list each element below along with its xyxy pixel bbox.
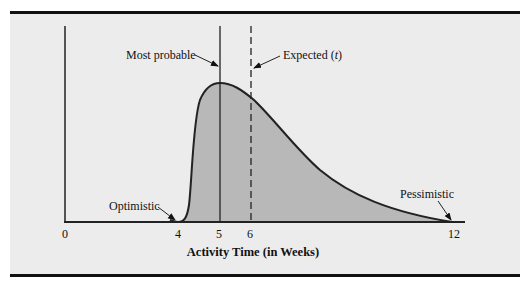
distribution-area (178, 83, 452, 222)
pessimistic-arrow (438, 201, 451, 220)
expected-label: Expected (t) (283, 48, 342, 62)
tick-0: 0 (62, 227, 68, 241)
x-axis-label: Activity Time (in Weeks) (187, 245, 319, 259)
pessimistic-label: Pessimistic (400, 187, 454, 201)
most-probable-label: Most probable (126, 48, 196, 62)
most-probable-arrow (195, 55, 218, 66)
optimistic-label: Optimistic (109, 199, 160, 213)
beta-distribution-chart: Most probable Expected (t) Optimistic Pe… (0, 0, 530, 290)
optimistic-arrow (158, 207, 175, 220)
expected-arrow (254, 56, 280, 68)
tick-4: 4 (175, 227, 181, 241)
tick-6: 6 (247, 227, 253, 241)
tick-12: 12 (448, 227, 460, 241)
tick-5: 5 (216, 227, 222, 241)
